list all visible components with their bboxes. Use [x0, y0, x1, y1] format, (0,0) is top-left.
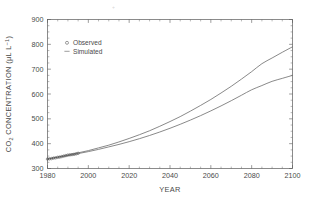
y-tick-label: 300 [32, 164, 44, 173]
x-tick-label: 2080 [244, 171, 260, 180]
legend-label: Observed [73, 39, 102, 46]
x-tick-label: 2000 [80, 171, 96, 180]
x-axis-tick-labels: 1980200020202040206020802100 [40, 171, 301, 180]
y-axis-tick-labels: 300400500600700800900 [32, 15, 44, 173]
series-line [48, 47, 293, 159]
chart-figure: + 1980200020202040206020802100 300400500… [0, 0, 316, 198]
co2-concentration-line-chart: 1980200020202040206020802100 30040050060… [0, 0, 316, 198]
image-speck-artifact: + [112, 6, 115, 9]
x-tick-label: 2020 [121, 171, 137, 180]
series-line [48, 75, 293, 159]
x-axis-title: YEAR [159, 185, 181, 194]
y-tick-label: 600 [32, 90, 44, 99]
y-tick-label: 800 [32, 40, 44, 49]
y-axis-title: CO2 CONCENTRATION (μL L−1) [4, 36, 14, 153]
legend-circle-icon [66, 41, 69, 44]
x-tick-label: 2060 [203, 171, 219, 180]
x-tick-label: 2040 [162, 171, 178, 180]
y-tick-label: 400 [32, 139, 44, 148]
y-tick-label: 700 [32, 65, 44, 74]
y-tick-label: 900 [32, 15, 44, 24]
legend-label: Simulated [73, 48, 103, 55]
data-series [48, 47, 293, 159]
y-axis-title-text: CO2 CONCENTRATION (μL L−1) [4, 36, 14, 153]
y-tick-label: 500 [32, 114, 44, 123]
observed-markers [46, 152, 79, 160]
chart-legend: ObservedSimulated [64, 39, 102, 55]
x-tick-label: 2100 [285, 171, 301, 180]
